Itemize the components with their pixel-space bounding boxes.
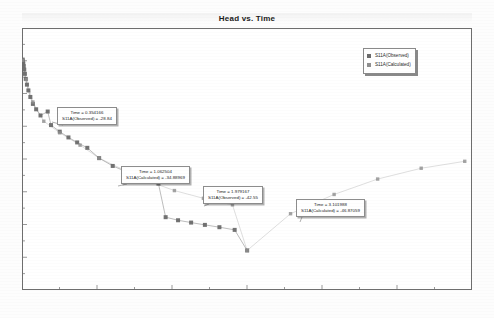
chart-legend[interactable]: S11A(Observed) S11A(Calculated) <box>363 48 416 74</box>
legend-label-calculated: S11A(Calculated) <box>375 62 411 68</box>
annotation-value: S11A(Calculated) = -34.88969 <box>126 175 185 181</box>
annotation-callout[interactable]: Time = 1.979167 S11A(Observed) = -42.55 <box>203 186 263 204</box>
annotation-callout[interactable]: Time = 3.101988 S11A(Calculated) = -46.8… <box>296 199 365 217</box>
series-markers <box>22 58 466 253</box>
legend-label-observed: S11A(Observed) <box>375 53 409 59</box>
series-lines <box>23 60 465 251</box>
legend-swatch-observed <box>367 54 371 58</box>
annotation-callout[interactable]: Time = 1.062504 S11A(Calculated) = -34.8… <box>121 166 190 184</box>
chart-screenshot: Head vs. Time S11A(Observed) S11A(Calcul… <box>0 0 494 318</box>
annotation-value: S11A(Calculated) = -46.87059 <box>301 208 360 214</box>
x-axis-ticks <box>22 285 472 290</box>
annotation-value: S11A(Observed) = -28.84 <box>62 116 112 122</box>
annotation-callout[interactable]: Time = 0.354166 S11A(Observed) = -28.84 <box>57 107 117 125</box>
legend-swatch-calculated <box>367 63 371 67</box>
legend-item-observed[interactable]: S11A(Observed) <box>367 52 411 60</box>
legend-item-calculated[interactable]: S11A(Calculated) <box>367 61 411 69</box>
chart-title: Head vs. Time <box>0 14 494 23</box>
annotation-value: S11A(Observed) = -42.55 <box>208 195 258 201</box>
